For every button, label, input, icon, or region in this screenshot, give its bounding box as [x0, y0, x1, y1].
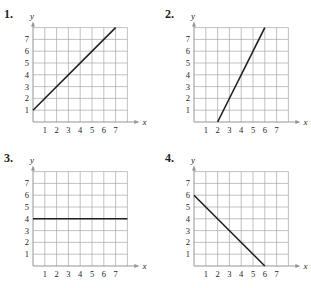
y-tick-label: 1: [186, 249, 190, 259]
y-axis-label: y: [29, 11, 34, 21]
x-arrow-icon: [134, 120, 139, 124]
x-tick-label: 3: [227, 269, 231, 279]
x-tick-label: 6: [263, 125, 267, 135]
x-tick-label: 4: [78, 125, 83, 135]
x-tick-label: 2: [54, 269, 58, 279]
graph-1: 1.xy12345671234567: [4, 7, 146, 135]
y-tick-label: 4: [186, 70, 191, 80]
y-tick-label: 5: [25, 58, 29, 68]
x-tick-label: 2: [215, 125, 219, 135]
x-tick-label: 7: [274, 269, 278, 279]
y-axis-label: y: [29, 155, 34, 165]
x-tick-label: 3: [227, 125, 231, 135]
y-tick-label: 4: [186, 214, 191, 224]
y-tick-label: 3: [186, 226, 190, 236]
plotted-line: [33, 28, 116, 111]
x-tick-label: 6: [263, 269, 267, 279]
y-arrow-icon: [31, 166, 35, 171]
y-tick-label: 1: [25, 105, 29, 115]
x-tick-label: 7: [113, 125, 117, 135]
x-tick-label: 7: [113, 269, 117, 279]
x-tick-label: 2: [215, 269, 219, 279]
problem-number: 1.: [4, 7, 13, 21]
y-tick-label: 6: [186, 190, 190, 200]
y-tick-label: 2: [25, 93, 29, 103]
x-tick-label: 5: [90, 269, 94, 279]
x-axis-label: x: [141, 117, 146, 127]
x-tick-label: 6: [102, 125, 106, 135]
x-tick-label: 3: [66, 125, 70, 135]
y-tick-label: 4: [25, 214, 30, 224]
y-tick-label: 6: [25, 46, 29, 56]
y-tick-label: 3: [186, 82, 190, 92]
problem-number: 2.: [165, 7, 174, 21]
problem-number: 3.: [4, 151, 13, 165]
grid: [33, 28, 127, 122]
y-tick-label: 7: [25, 178, 29, 188]
y-tick-label: 1: [186, 105, 190, 115]
y-tick-label: 5: [25, 202, 29, 212]
x-tick-label: 7: [274, 125, 278, 135]
x-axis-label: x: [302, 117, 307, 127]
y-tick-label: 2: [186, 237, 190, 247]
x-tick-label: 5: [251, 125, 255, 135]
y-axis-label: y: [190, 11, 195, 21]
x-tick-label: 5: [251, 269, 255, 279]
graph-4: 4.xy12345671234567: [165, 151, 307, 279]
y-tick-label: 7: [186, 178, 190, 188]
y-tick-label: 4: [25, 70, 30, 80]
problem-number: 4.: [165, 151, 174, 165]
y-tick-label: 5: [186, 58, 190, 68]
grid: [194, 172, 288, 266]
y-arrow-icon: [31, 22, 35, 27]
y-tick-label: 3: [25, 82, 29, 92]
y-tick-label: 5: [186, 202, 190, 212]
y-tick-label: 2: [186, 93, 190, 103]
x-tick-label: 5: [90, 125, 94, 135]
x-arrow-icon: [295, 264, 300, 268]
y-tick-label: 6: [186, 46, 190, 56]
x-tick-label: 6: [102, 269, 106, 279]
x-tick-label: 2: [54, 125, 58, 135]
y-arrow-icon: [192, 166, 196, 171]
x-tick-label: 4: [78, 269, 83, 279]
x-tick-label: 1: [43, 125, 47, 135]
x-axis-label: x: [302, 261, 307, 271]
x-tick-label: 4: [239, 269, 244, 279]
y-tick-label: 7: [25, 34, 29, 44]
x-tick-label: 4: [239, 125, 244, 135]
x-axis-label: x: [141, 261, 146, 271]
y-tick-label: 3: [25, 226, 29, 236]
y-tick-label: 7: [186, 34, 190, 44]
graphs-canvas: 1.xy123456712345672.xy123456712345673.xy…: [0, 0, 311, 288]
x-tick-label: 3: [66, 269, 70, 279]
x-arrow-icon: [134, 264, 139, 268]
y-arrow-icon: [192, 22, 196, 27]
x-tick-label: 1: [43, 269, 47, 279]
y-tick-label: 6: [25, 190, 29, 200]
y-axis-label: y: [190, 155, 195, 165]
y-tick-label: 1: [25, 249, 29, 259]
graph-2: 2.xy12345671234567: [165, 7, 307, 135]
x-arrow-icon: [295, 120, 300, 124]
x-tick-label: 1: [204, 125, 208, 135]
y-tick-label: 2: [25, 237, 29, 247]
graph-3: 3.xy12345671234567: [4, 151, 146, 279]
x-tick-label: 1: [204, 269, 208, 279]
